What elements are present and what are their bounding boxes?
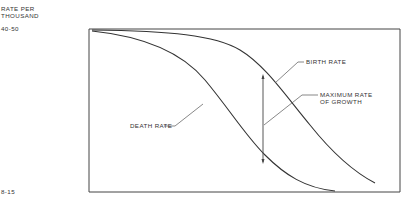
arrow-head-top bbox=[262, 74, 265, 79]
birth-rate-label: BIRTH RATE bbox=[306, 58, 346, 65]
y-axis-label-line2: THOUSAND bbox=[1, 12, 39, 19]
birth-rate-leader bbox=[275, 62, 304, 83]
birth-rate-curve bbox=[92, 30, 375, 183]
y-tick-bottom: 8-15 bbox=[1, 188, 15, 195]
y-tick-top: 40-50 bbox=[1, 25, 19, 32]
max-growth-leader bbox=[264, 95, 318, 125]
arrow-head-bottom bbox=[262, 159, 265, 164]
y-axis-label-line1: RATE PER bbox=[1, 5, 35, 12]
max-growth-label-line1: MAXIMUM RATE bbox=[320, 91, 372, 98]
demographic-transition-chart: RATE PER THOUSAND 40-50 8-15 BIRTH RATE … bbox=[0, 0, 418, 202]
max-growth-label-line2: OF GROWTH bbox=[320, 98, 362, 105]
death-rate-label: DEATH RATE bbox=[130, 122, 172, 129]
